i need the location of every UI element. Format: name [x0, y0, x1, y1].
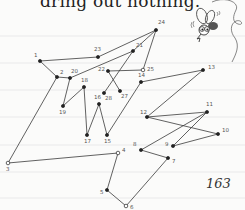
connecting-line [147, 112, 207, 117]
dot-label-7: 7 [172, 158, 176, 164]
dot-label-9: 9 [165, 141, 169, 147]
dot-12 [145, 115, 148, 118]
dot-21 [131, 49, 134, 52]
dot-8 [139, 148, 142, 151]
dot-15 [105, 133, 108, 136]
dot-label-11: 11 [206, 101, 213, 107]
connecting-line [8, 153, 118, 163]
dot-11 [205, 110, 208, 113]
connecting-line [147, 70, 203, 117]
dot-label-22: 22 [98, 66, 105, 72]
connecting-line [87, 104, 99, 135]
dot-label-25: 25 [147, 66, 154, 72]
dot-label-27: 27 [121, 93, 128, 99]
connecting-line [108, 71, 120, 91]
connecting-line [107, 153, 118, 190]
dot-13 [201, 68, 204, 71]
dot-label-18: 18 [81, 77, 88, 83]
dot-2 [55, 75, 58, 78]
dot-label-13: 13 [208, 64, 215, 70]
dot-label-23: 23 [94, 46, 101, 52]
dot-label-3: 3 [6, 166, 10, 172]
dot-23 [96, 55, 99, 58]
dot-9 [171, 144, 174, 147]
dot-1 [38, 59, 41, 62]
connecting-line [63, 78, 70, 106]
dot-3 [6, 161, 10, 165]
dot-label-15: 15 [104, 138, 111, 144]
dot-label-5: 5 [100, 189, 104, 195]
connecting-line [98, 30, 156, 57]
ruled-lines [0, 36, 245, 198]
dot-label-8: 8 [133, 141, 137, 147]
page-number: 163 [206, 176, 231, 191]
dot-19 [61, 104, 64, 107]
dot-label-14: 14 [138, 72, 145, 78]
dot-label-16: 16 [94, 94, 101, 100]
dot-4 [116, 151, 120, 155]
dot-label-6: 6 [130, 204, 134, 210]
dot-16 [97, 102, 100, 105]
dot-25 [141, 68, 145, 72]
dot-14 [139, 80, 142, 83]
dot-label-19: 19 [59, 109, 66, 115]
dot-label-2: 2 [60, 69, 64, 75]
fly-flight-trail [212, 0, 242, 62]
connecting-line [57, 77, 70, 78]
connecting-line [147, 117, 218, 134]
dot-24 [154, 28, 157, 31]
connecting-line [126, 158, 168, 206]
connecting-line [173, 134, 218, 146]
connecting-line [84, 87, 87, 135]
dot-10 [216, 132, 219, 135]
dot-17 [85, 133, 88, 136]
dot-label-24: 24 [158, 19, 165, 25]
connecting-line [108, 70, 143, 71]
fly-illustration-icon [191, 7, 220, 42]
dot-label-4: 4 [122, 147, 126, 153]
dot-label-12: 12 [140, 109, 147, 115]
dot-label-20: 20 [71, 68, 78, 74]
dot-label-10: 10 [222, 127, 229, 133]
dot-7 [166, 156, 169, 159]
dot-6 [124, 204, 128, 208]
dot-label-17: 17 [84, 138, 91, 144]
dot-label-1: 1 [34, 52, 38, 58]
dot-label-28: 28 [105, 95, 112, 101]
connecting-line [40, 57, 98, 61]
dot-20 [68, 76, 71, 79]
workbook-page: dring out nothing. 123456789101112131415… [0, 0, 245, 210]
dot-5 [105, 188, 108, 191]
connecting-lines [8, 30, 218, 206]
connecting-line [99, 104, 107, 135]
dot-22 [106, 69, 109, 72]
dot-label-21: 21 [136, 42, 143, 48]
connecting-line [141, 150, 168, 158]
dot-18 [82, 85, 85, 88]
connecting-line [40, 61, 57, 77]
